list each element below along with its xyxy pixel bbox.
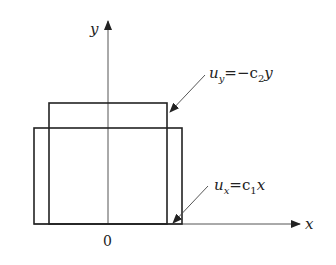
uy-base: u [209,64,219,82]
y-axis-label: y [89,20,99,38]
ux-base: u [214,176,224,194]
x-axis-label: x [305,215,314,233]
leader-line-ux [173,186,208,223]
diagram-canvas: y x 0 uy=−c2y ux=c1x [0,0,336,265]
origin-label: 0 [103,233,112,249]
ux-rhs-prefix: =c [229,176,250,194]
annotation-ux: ux=c1x [214,176,266,196]
ux-rhs-suffix: x [257,176,266,194]
annotation-uy: uy=−c2y [209,64,273,84]
uy-rhs-prefix: =−c [224,64,258,82]
leader-line-uy [170,75,205,112]
uy-rhs-suffix: y [263,64,273,82]
